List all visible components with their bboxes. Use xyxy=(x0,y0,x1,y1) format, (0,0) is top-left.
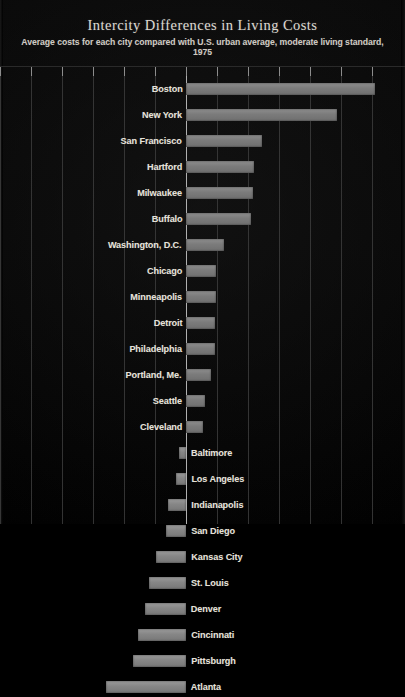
bar-label: Pittsburgh xyxy=(191,653,236,668)
bar[interactable] xyxy=(149,577,186,589)
bar-label: San Diego xyxy=(191,523,235,538)
bar[interactable] xyxy=(186,317,215,329)
bar-row[interactable]: Milwaukee xyxy=(0,180,405,206)
bar[interactable] xyxy=(133,655,186,667)
bar-label: Portland, Me. xyxy=(126,367,182,382)
bar-label: Hartford xyxy=(147,159,182,174)
bar-row[interactable]: Chicago xyxy=(0,258,405,284)
bar-label: New York xyxy=(142,107,182,122)
bar[interactable] xyxy=(186,291,216,303)
bar[interactable] xyxy=(106,681,186,693)
bar-label: Detroit xyxy=(154,315,183,330)
chart-subtitle: Average costs for each city compared wit… xyxy=(14,37,391,57)
axis-tick xyxy=(217,67,218,76)
bar-label: Atlanta xyxy=(191,679,221,694)
bar-label: Milwaukee xyxy=(137,185,182,200)
bar-label: Cleveland xyxy=(140,419,182,434)
bar[interactable] xyxy=(186,161,254,173)
bar-label: Philadelphia xyxy=(129,341,182,356)
axis-tick xyxy=(186,67,187,76)
axis-tick xyxy=(372,67,373,76)
axis-tick xyxy=(155,67,156,76)
bar-row[interactable]: St. Louis xyxy=(0,570,405,596)
bar-row[interactable]: San Diego xyxy=(0,518,405,544)
bar[interactable] xyxy=(186,343,215,355)
bar-row[interactable]: Kansas City xyxy=(0,544,405,570)
bar-label: Cincinnati xyxy=(191,627,234,642)
bar-label: Los Angeles xyxy=(191,471,244,486)
bar[interactable] xyxy=(186,213,251,225)
bar[interactable] xyxy=(176,473,186,485)
bar-row[interactable]: Los Angeles xyxy=(0,466,405,492)
bar-label: Chicago xyxy=(147,263,182,278)
bar[interactable] xyxy=(186,265,216,277)
bar-row[interactable]: Buffalo xyxy=(0,206,405,232)
bar-row[interactable]: Seattle xyxy=(0,388,405,414)
bar-row[interactable]: Portland, Me. xyxy=(0,362,405,388)
bar-label: Washington, D.C. xyxy=(107,237,181,252)
bar[interactable] xyxy=(168,499,186,511)
chart-title: Intercity Differences in Living Costs xyxy=(0,17,405,34)
bar[interactable] xyxy=(186,135,262,147)
bar-label: Seattle xyxy=(153,393,182,408)
bar-row[interactable]: Baltimore xyxy=(0,440,405,466)
axis-tick xyxy=(279,67,280,76)
bar-row[interactable]: Philadelphia xyxy=(0,336,405,362)
bar-label: Buffalo xyxy=(151,211,182,226)
axis-tick xyxy=(341,67,342,76)
bar[interactable] xyxy=(186,421,203,433)
bar[interactable] xyxy=(138,629,186,641)
plot-area: BostonNew YorkSan FranciscoHartfordMilwa… xyxy=(0,66,405,524)
bar-label: Kansas City xyxy=(191,549,242,564)
bar-row[interactable]: Cincinnati xyxy=(0,622,405,648)
axis-tick xyxy=(310,67,311,76)
bar-row[interactable]: Boston xyxy=(0,76,405,102)
bar[interactable] xyxy=(166,525,186,537)
bar-label: San Francisco xyxy=(120,133,181,148)
axis-tick xyxy=(62,67,63,76)
bar[interactable] xyxy=(186,395,205,407)
bar-row[interactable]: Pittsburgh xyxy=(0,648,405,674)
bar-label: Boston xyxy=(151,81,182,96)
bar[interactable] xyxy=(186,83,375,95)
bar-row[interactable]: Washington, D.C. xyxy=(0,232,405,258)
chart-header: Intercity Differences in Living Costs Av… xyxy=(0,0,405,66)
axis-tick xyxy=(0,67,1,76)
bar-label: Minneapolis xyxy=(130,289,182,304)
axis-tick xyxy=(93,67,94,76)
bar[interactable] xyxy=(186,109,337,121)
axis-top-rule xyxy=(0,66,405,67)
bar-label: Baltimore xyxy=(191,445,232,460)
axis-tick xyxy=(248,67,249,76)
bar-row[interactable]: Minneapolis xyxy=(0,284,405,310)
bar[interactable] xyxy=(186,239,224,251)
bar-label: Indianapolis xyxy=(191,497,243,512)
bar-label: St. Louis xyxy=(191,575,229,590)
axis-tick xyxy=(31,67,32,76)
bar-label: Denver xyxy=(191,601,221,616)
bar[interactable] xyxy=(145,603,186,615)
bar-row[interactable]: Indianapolis xyxy=(0,492,405,518)
bar[interactable] xyxy=(186,187,253,199)
bar-row[interactable]: New York xyxy=(0,102,405,128)
axis-tick xyxy=(124,67,125,76)
bar-row[interactable]: Detroit xyxy=(0,310,405,336)
bar[interactable] xyxy=(179,447,186,459)
bar-row[interactable]: Hartford xyxy=(0,154,405,180)
bar-row[interactable]: Denver xyxy=(0,596,405,622)
bar-row[interactable]: Cleveland xyxy=(0,414,405,440)
bar[interactable] xyxy=(186,369,211,381)
bar-row[interactable]: San Francisco xyxy=(0,128,405,154)
bar[interactable] xyxy=(156,551,186,563)
bar-row[interactable]: Atlanta xyxy=(0,674,405,697)
